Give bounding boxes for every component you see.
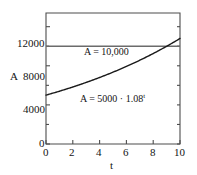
x-axis-ticks [46, 140, 180, 144]
y-axis-ticks [46, 27, 180, 144]
annotation-curve-text: A = 5000 · 1.08 [80, 93, 143, 104]
annotation-exponential-curve: A = 5000 · 1.08t [80, 93, 145, 104]
y-axis-title: A [10, 71, 18, 82]
chart-figure: 12000 8000 4000 0 A 0 2 4 6 8 10 t A = 1… [0, 0, 197, 175]
y-tick-label-4000: 4000 [23, 104, 45, 115]
x-tick-label-10: 10 [174, 147, 185, 158]
plot-border [46, 13, 180, 144]
y-tick-label-12000: 12000 [17, 38, 45, 49]
x-tick-label-2: 2 [69, 147, 75, 158]
annotation-constant-text: A = 10,000 [84, 46, 129, 57]
axes-frame [46, 13, 180, 144]
x-tick-label-4: 4 [96, 147, 102, 158]
x-tick-label-8: 8 [150, 147, 156, 158]
annotation-curve-exponent: t [143, 92, 145, 100]
x-tick-label-0: 0 [43, 147, 49, 158]
x-tick-label-6: 6 [123, 147, 129, 158]
x-axis-title: t [110, 160, 113, 171]
y-tick-label-8000: 8000 [23, 71, 45, 82]
annotation-constant-line: A = 10,000 [84, 46, 129, 57]
